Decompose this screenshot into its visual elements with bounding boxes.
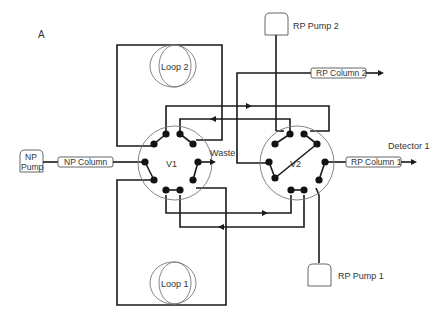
- rp-pump-2-body: [265, 13, 288, 35]
- arrow-left-bottom-icon: [218, 224, 224, 230]
- np-pump-label-line2: Pump: [21, 162, 43, 172]
- waste-label: Waste: [210, 148, 235, 158]
- rp-pump-1-label: RP Pump 1: [338, 271, 384, 281]
- v1-channel-b: [180, 134, 193, 144]
- detector-1-label: Detector 1: [388, 141, 430, 151]
- arrow-right-bottom-icon: [262, 210, 268, 216]
- v2-channel-c: [275, 144, 317, 178]
- loop-2-tubing-left: [117, 126, 152, 146]
- rp-pump-1-body: [308, 264, 331, 286]
- rp-column-1: RP Column 1: [346, 157, 402, 167]
- np-pump: NP Pump: [20, 150, 43, 172]
- v1-channel-e: [145, 162, 154, 180]
- loop-2: Loop 2: [117, 45, 222, 146]
- v1-channel-a: [154, 134, 166, 144]
- v2-to-v1-bottom-outer-line: [180, 195, 304, 227]
- rp-column-1-label: RP Column 1: [351, 157, 402, 167]
- v2-to-rp-column-2-line: [237, 73, 311, 163]
- rp-column-2-outlet-arrow-icon: [378, 70, 384, 76]
- loop-1-label: Loop 1: [161, 279, 189, 289]
- v2-channel-b: [304, 134, 317, 144]
- v2-channel-d: [269, 162, 275, 178]
- arrow-right-top-icon: [246, 103, 252, 109]
- v1-channel-c: [193, 162, 198, 180]
- arrow-left-top-icon: [210, 116, 216, 122]
- rp-column-2-label: RP Column 2: [316, 68, 367, 78]
- v2-channel-e: [319, 162, 325, 180]
- rp-pump-1: RP Pump 1: [308, 264, 384, 286]
- hplc-valve-diagram: A Loop 2 Loop 1 NP Pump NP Column: [0, 0, 447, 320]
- loop-2-tubing: [117, 45, 222, 140]
- rp-pump-2: RP Pump 2: [265, 13, 339, 35]
- loop-1: Loop 1: [117, 180, 226, 305]
- detector-arrow-icon: [411, 159, 417, 165]
- v1-to-v2-bottom-inner-line: [166, 195, 291, 213]
- valve-v1-label: V1: [166, 159, 177, 169]
- rp-pump-2-label: RP Pump 2: [293, 21, 339, 31]
- rp-column-2: RP Column 2: [311, 68, 367, 78]
- np-column-label: NP Column: [64, 157, 108, 167]
- v2-channel-a: [275, 134, 290, 144]
- np-pump-label-line1: NP: [25, 152, 37, 162]
- valve-v1: V1: [138, 126, 212, 200]
- valve-v2: V2: [260, 126, 334, 200]
- panel-label: A: [38, 29, 45, 40]
- np-column: NP Column: [58, 157, 113, 167]
- loop-2-label: Loop 2: [161, 62, 189, 72]
- waste-arrow-icon: [210, 159, 216, 165]
- v2-to-v1-top-inner-line: [180, 119, 290, 131]
